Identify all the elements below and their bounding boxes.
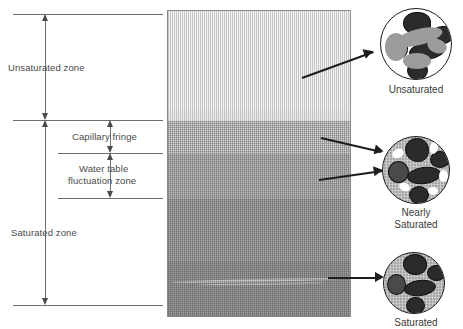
dim-line-saturated — [45, 122, 46, 303]
rule-top-capillary-fringe — [13, 120, 163, 121]
arrow-down-capillary-fringe — [107, 146, 113, 153]
water-film — [403, 53, 431, 69]
label-water-table-fluctuation-zone-line2: fluctuation zone — [68, 175, 136, 186]
rule-base-fluctuation-zone — [58, 198, 163, 199]
label-capillary-fringe: Capillary fringe — [72, 131, 137, 142]
inset-unsaturated-circle — [380, 8, 452, 80]
air-bubble — [428, 187, 438, 195]
grain — [409, 186, 429, 204]
label-water-table-fluctuation-zone-line1: Water table — [79, 163, 128, 174]
grain — [387, 274, 406, 295]
label-saturated-zone: Saturated zone — [11, 227, 77, 238]
inset-unsaturated: Unsaturated — [376, 8, 456, 108]
soil-column — [167, 10, 351, 317]
leader-line-saturated — [328, 277, 381, 279]
inset-saturated-circle — [383, 252, 445, 314]
arrow-up-unsaturated — [42, 14, 48, 21]
arrow-up-fluctuation-zone — [107, 153, 113, 160]
inset-nearly-saturated-label-line1: Nearly — [376, 207, 456, 219]
arrow-up-capillary-fringe — [107, 120, 113, 127]
air-bubble — [439, 170, 448, 182]
grain — [403, 254, 427, 275]
inset-unsaturated-label: Unsaturated — [376, 84, 456, 96]
leader-arrowhead-unsaturated — [362, 46, 374, 58]
inset-saturated-label: Saturated — [376, 317, 456, 329]
grain — [388, 161, 409, 183]
label-unsaturated-zone: Unsaturated zone — [8, 62, 85, 73]
arrow-down-saturated — [42, 298, 48, 305]
inset-saturated: Saturated — [376, 252, 456, 322]
arrow-down-unsaturated — [42, 113, 48, 120]
arrow-up-saturated — [42, 120, 48, 127]
grain — [406, 297, 425, 314]
rule-bottom — [13, 305, 163, 306]
inset-nearly-saturated-label-line2: Saturated — [376, 219, 456, 231]
texture-vertical-striations — [168, 11, 350, 121]
texture-stipple — [168, 121, 350, 316]
grain — [405, 138, 429, 162]
arrow-down-fluctuation-zone — [107, 191, 113, 198]
grain — [427, 265, 445, 281]
rule-ground-surface — [13, 14, 163, 15]
inset-nearly-saturated-circle — [382, 136, 450, 204]
inset-nearly-saturated: Nearly Saturated — [376, 136, 456, 248]
